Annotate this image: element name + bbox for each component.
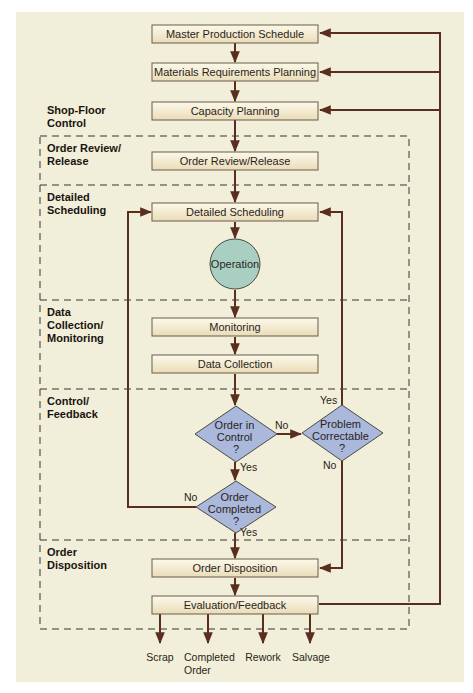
process-box-label: Master Production Schedule: [166, 28, 304, 40]
output-scrap: Scrap: [146, 651, 174, 663]
edge-label-correctable-no: No: [323, 459, 337, 471]
process-box-label: Materials Requirements Planning: [154, 66, 316, 78]
output-salvage: Salvage: [292, 651, 330, 663]
process-box-order-disposition[interactable]: Order Disposition: [152, 559, 318, 577]
process-box-capacity-planning[interactable]: Capacity Planning: [152, 102, 318, 120]
process-box-label: Detailed Scheduling: [186, 206, 284, 218]
process-box-label: Capacity Planning: [191, 105, 280, 117]
process-box-label: Order Disposition: [193, 562, 278, 574]
process-box-label: Monitoring: [209, 321, 260, 333]
operation-node[interactable]: Operation: [210, 239, 260, 289]
process-box-order-review-release[interactable]: Order Review/Release: [152, 152, 318, 170]
process-box-label: Order Review/Release: [180, 155, 291, 167]
edge-label-correctable-yes: Yes: [320, 394, 337, 406]
operation-label: Operation: [211, 258, 259, 270]
process-box-mrp[interactable]: Materials Requirements Planning: [152, 63, 318, 81]
edge-label-in-control-no: No: [275, 419, 289, 431]
process-box-monitoring[interactable]: Monitoring: [152, 318, 318, 336]
edge-label-completed-no: No: [184, 491, 198, 503]
process-box-detailed-scheduling[interactable]: Detailed Scheduling: [152, 203, 318, 221]
edge-label-completed-yes: Yes: [240, 526, 257, 538]
output-rework: Rework: [245, 651, 281, 663]
process-box-mps[interactable]: Master Production Schedule: [152, 25, 318, 43]
process-box-label: Data Collection: [198, 358, 273, 370]
process-box-label: Evaluation/Feedback: [184, 599, 287, 611]
shop-floor-control-diagram: Shop-FloorControl Order Review/Release D…: [0, 0, 473, 693]
edge-label-in-control-yes: Yes: [240, 461, 257, 473]
process-box-evaluation-feedback[interactable]: Evaluation/Feedback: [152, 596, 318, 614]
process-box-data-collection[interactable]: Data Collection: [152, 355, 318, 373]
